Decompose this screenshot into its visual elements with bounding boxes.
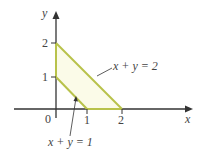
x-tick-label-1: 1 (84, 113, 90, 127)
outer-line-pointer (97, 68, 112, 76)
y-tick-label-1: 1 (42, 70, 48, 84)
y-axis-label: y (41, 6, 48, 20)
outer-line-annotation: x + y = 2 (112, 59, 158, 73)
inner-line-pointer (70, 98, 76, 136)
y-axis-arrow-icon (53, 11, 60, 19)
inner-line-annotation: x + y = 1 (47, 135, 93, 149)
y-tick-label-2: 2 (42, 36, 48, 50)
x-tick-label-0: 0 (45, 112, 51, 126)
x-tick-label-2: 2 (118, 113, 124, 127)
diagram: y x 2 1 0 1 2 x + y = 2 x + y = 1 (0, 0, 209, 156)
x-axis-label: x (184, 112, 191, 126)
